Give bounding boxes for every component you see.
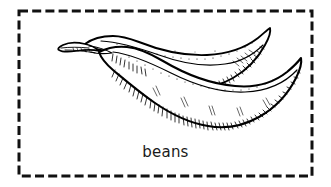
beans-illustration: [55, 22, 315, 137]
flashcard: beans: [0, 0, 331, 187]
caption-label: beans: [19, 143, 312, 161]
